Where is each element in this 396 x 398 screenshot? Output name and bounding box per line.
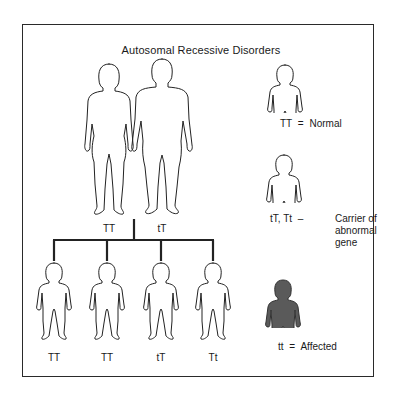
legend-meaning: Normal — [309, 118, 341, 129]
child-genotype: TT — [39, 352, 69, 363]
pedigree-art — [0, 0, 396, 398]
legend-normal: TT = Normal — [280, 118, 342, 130]
child-genotype: tT — [146, 352, 176, 363]
parent-female-genotype: TT — [94, 223, 124, 234]
legend-meaning: abnormal — [335, 225, 377, 237]
legend-carrier: tT, Tt – Carrier of abnormal gene — [270, 213, 306, 225]
legend-separator: = — [298, 118, 304, 129]
legend-separator: – — [298, 213, 304, 224]
child-figure — [90, 263, 125, 339]
child-genotype: TT — [92, 352, 122, 363]
parent-female-figure — [85, 64, 134, 214]
legend-affected: tt = Affected — [278, 341, 337, 353]
child-figure — [37, 263, 72, 339]
legend-meaning: Affected — [300, 341, 337, 352]
legend-genotype: tT, Tt — [270, 213, 292, 224]
child-figure — [196, 263, 231, 339]
legend-meaning: gene — [335, 237, 357, 249]
child-genotype: Tt — [198, 352, 228, 363]
legend-genotype: TT — [280, 118, 292, 129]
legend-meaning: Carrier of — [335, 213, 377, 225]
legend-separator: = — [289, 341, 295, 352]
parent-male-figure — [132, 59, 193, 214]
legend-genotype: tt — [278, 341, 284, 352]
parent-male-genotype: tT — [147, 223, 177, 234]
child-figure — [144, 263, 179, 339]
